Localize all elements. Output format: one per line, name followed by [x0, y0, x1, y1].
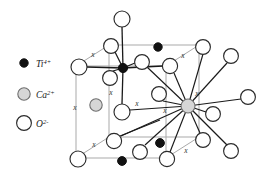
- oxygen-atom: [135, 55, 150, 70]
- bond-label-4: x: [134, 99, 139, 108]
- legend-label-ca: Ca2+: [36, 89, 55, 101]
- oxygen-atom: [196, 40, 211, 55]
- oxygen-atom: [206, 107, 221, 122]
- legend-charge-ca: 2+: [47, 89, 55, 96]
- perovskite-structure-figure: xxxxxxxxx: [0, 0, 272, 178]
- oxygen-atom: [133, 145, 148, 160]
- crystal-structure-diagram: xxxxxxxxx: [0, 0, 272, 178]
- legend-item-ca: Ca2+: [18, 88, 55, 100]
- bond-label-9: x: [183, 146, 188, 155]
- oxygen-atom: [106, 133, 121, 148]
- oxygen-atom: [152, 87, 167, 102]
- titanium-atom: [118, 157, 127, 166]
- oxygen-atom: [103, 71, 118, 86]
- legend-item-o: O2-: [17, 116, 49, 131]
- bond-label-5: x: [194, 89, 199, 98]
- oxygen-atom: [241, 90, 256, 105]
- oxygen-atom: [224, 144, 239, 159]
- calcium-atom-central: [181, 99, 195, 113]
- titanium-atom: [156, 139, 165, 148]
- legend-charge-o: 2-: [43, 118, 48, 125]
- legend-charge-ti: 4+: [43, 58, 51, 65]
- calcium-legend-icon: [18, 88, 30, 100]
- bond-label-3: x: [108, 88, 113, 97]
- ti-bond-down-long: [122, 68, 123, 104]
- calcium-atoms: [90, 99, 195, 113]
- oxygen-legend-icon: [17, 116, 32, 131]
- legend-symbol-ca: Ca: [36, 90, 47, 100]
- oxygen-atom: [162, 58, 177, 73]
- legend-label-ti: Ti4+: [36, 58, 51, 70]
- oxygen-atom: [159, 151, 174, 166]
- ti-bond-apex: [122, 27, 123, 68]
- oxygen-atom: [196, 133, 211, 148]
- ca-bond-lower-left-diag: [120, 120, 160, 136]
- legend: Ti4+ Ca2+ O2-: [17, 58, 55, 131]
- ca-bond-far-right-mid: [188, 99, 241, 106]
- bond-label-2: x: [180, 51, 185, 60]
- legend-label-o: O2-: [36, 118, 48, 130]
- bond-label-8: x: [91, 140, 96, 149]
- oxygen-atom: [224, 49, 239, 64]
- bond-label-6: x: [72, 103, 77, 112]
- bond-label-1: x: [90, 50, 95, 59]
- titanium-legend-icon: [20, 59, 28, 67]
- titanium-atom: [154, 43, 162, 51]
- oxygen-atom: [70, 151, 86, 167]
- calcium-atom: [90, 99, 102, 111]
- ti-bond-left: [87, 67, 123, 68]
- legend-item-ti: Ti4+: [20, 58, 51, 70]
- oxygen-atom: [114, 11, 130, 27]
- bond-label-7: x: [162, 106, 167, 115]
- titanium-atom-central: [118, 63, 127, 72]
- oxygen-atom: [104, 39, 119, 54]
- oxygen-atom: [71, 59, 87, 75]
- oxygen-atom: [114, 104, 130, 120]
